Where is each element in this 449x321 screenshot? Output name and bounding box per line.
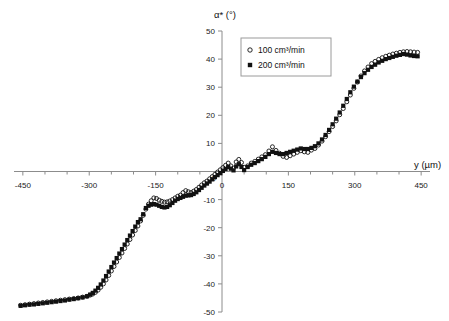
legend-entry-label: 200 cm³/min — [258, 60, 305, 70]
chart-svg: -450-300-1500150300450-50-40-30-20-10010… — [0, 0, 449, 321]
data-point-square — [36, 302, 40, 306]
data-point-square — [359, 75, 363, 79]
data-point-square — [50, 300, 54, 304]
x-tick-label: 0 — [220, 181, 225, 190]
data-point-square — [355, 79, 359, 83]
data-point-square — [338, 110, 342, 114]
data-point-square — [123, 242, 127, 246]
x-tick-label: -150 — [148, 181, 165, 190]
data-point-square — [76, 296, 80, 300]
y-tick-label: 20 — [206, 111, 215, 120]
data-point-square — [316, 141, 320, 145]
data-point-square — [32, 302, 36, 306]
x-tick-label: -300 — [81, 181, 98, 190]
chart-background — [0, 0, 449, 321]
legend-marker-filled-square — [248, 63, 252, 67]
data-point-square — [109, 265, 113, 269]
y-axis-label: α* (°) — [214, 9, 236, 20]
data-point-square — [104, 274, 108, 278]
data-point-square — [348, 90, 352, 94]
data-point-square — [327, 128, 331, 132]
x-tick-label: -450 — [15, 181, 32, 190]
y-tick-label: -20 — [203, 224, 215, 233]
legend-box — [241, 38, 331, 76]
data-point-square — [23, 303, 27, 307]
data-point-square — [128, 233, 132, 237]
data-point-square — [345, 97, 349, 101]
chart-figure: -450-300-1500150300450-50-40-30-20-10010… — [0, 0, 449, 321]
data-point-square — [112, 260, 116, 264]
data-point-square — [19, 304, 23, 308]
y-tick-label: 50 — [206, 27, 215, 36]
data-point-square — [320, 137, 324, 141]
data-point-square — [331, 122, 335, 126]
data-point-square — [72, 297, 76, 301]
data-point-square — [120, 247, 124, 251]
data-point-square — [63, 298, 67, 302]
y-tick-label: -30 — [203, 252, 215, 261]
y-tick-label: -50 — [203, 308, 215, 317]
x-tick-label: 450 — [414, 181, 428, 190]
data-point-square — [133, 224, 137, 228]
data-point-square — [231, 168, 235, 172]
data-point-square — [67, 298, 71, 302]
data-point-square — [81, 295, 85, 299]
data-point-square — [107, 269, 111, 273]
data-point-square — [54, 300, 58, 304]
data-point-square — [138, 217, 142, 221]
data-point-square — [334, 117, 338, 121]
data-point-square — [125, 238, 129, 242]
data-point-square — [352, 85, 356, 89]
legend-entry-label: 100 cm³/min — [258, 45, 305, 55]
y-tick-label: -40 — [203, 280, 215, 289]
y-tick-label: -10 — [203, 196, 215, 205]
data-point-square — [45, 301, 49, 305]
x-tick-label: 300 — [348, 181, 362, 190]
data-point-square — [99, 282, 103, 286]
x-tick-label: 150 — [282, 181, 296, 190]
legend-group[interactable]: 100 cm³/min200 cm³/min — [241, 38, 331, 76]
data-point-square — [323, 133, 327, 137]
data-point-square — [27, 303, 31, 307]
y-tick-label: 10 — [206, 139, 215, 148]
data-point-square — [341, 104, 345, 108]
data-point-square — [41, 301, 45, 305]
data-point-square — [131, 229, 135, 233]
data-point-square — [58, 299, 62, 303]
data-point-square — [101, 278, 105, 282]
y-tick-label: 40 — [206, 55, 215, 64]
data-point-square — [141, 212, 145, 216]
data-point-square — [117, 251, 121, 255]
y-tick-label: 30 — [206, 83, 215, 92]
data-point-square — [115, 256, 119, 260]
x-axis-label: y (µm) — [414, 159, 441, 170]
data-point-square — [416, 54, 420, 58]
